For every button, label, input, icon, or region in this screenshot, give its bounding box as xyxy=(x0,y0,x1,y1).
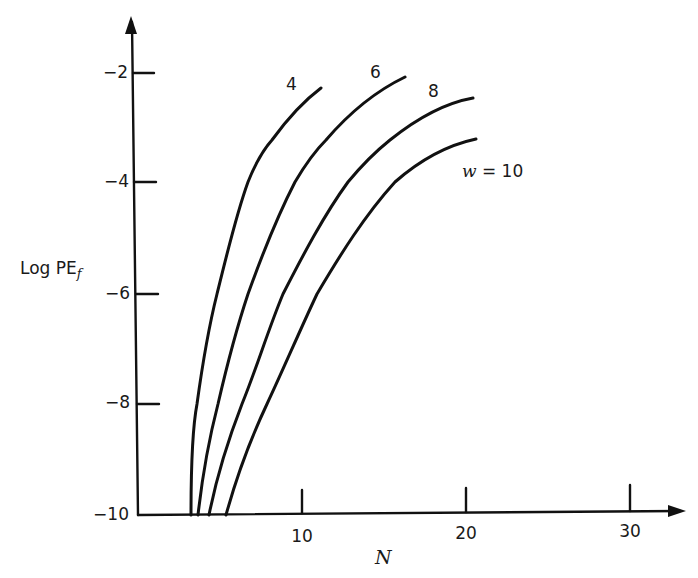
curve-label-w10-var: w xyxy=(462,161,477,181)
curve-w8 xyxy=(209,98,473,515)
y-tick-label: −4 xyxy=(79,173,129,190)
curve-label-w4: 4 xyxy=(286,76,297,93)
y-axis-arrow-icon xyxy=(125,16,137,34)
x-tick-label: 20 xyxy=(446,525,486,542)
curve-w10 xyxy=(226,139,476,515)
y-tick-label: −2 xyxy=(78,64,128,81)
x-axis xyxy=(138,511,680,515)
x-tick-label: 10 xyxy=(282,528,322,545)
y-axis-label: Log PEf xyxy=(20,260,82,280)
x-axis-label: N xyxy=(375,548,392,567)
curve-label-w10: w = 10 xyxy=(462,163,523,180)
y-axis-label-subscript: f xyxy=(77,266,82,281)
y-tick-label: −8 xyxy=(80,394,130,411)
x-tick-label: 30 xyxy=(610,523,650,540)
x-axis-arrow-icon xyxy=(668,505,686,517)
y-tick-label: −10 xyxy=(79,506,129,523)
y-tick-label: −6 xyxy=(80,285,130,302)
curve-label-w8: 8 xyxy=(428,83,439,100)
curve-w4 xyxy=(191,88,321,515)
curve-label-w10-value: = 10 xyxy=(477,161,524,181)
curve-label-w6: 6 xyxy=(370,64,381,81)
curve-w6 xyxy=(198,77,405,515)
y-axis xyxy=(132,22,138,515)
y-axis-label-main: Log PE xyxy=(20,258,77,278)
